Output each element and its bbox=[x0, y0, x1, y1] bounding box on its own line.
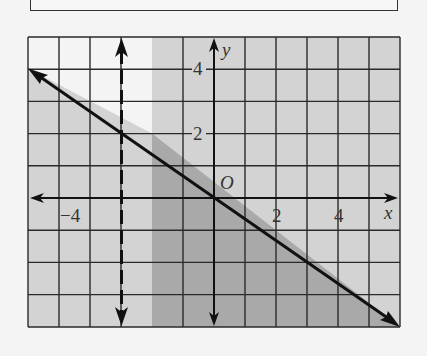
x-tick-neg4: −4 bbox=[60, 205, 81, 226]
y-tick-2: 2 bbox=[193, 123, 203, 144]
x-axis-label: x bbox=[383, 202, 393, 223]
origin-label: O bbox=[220, 172, 234, 193]
y-tick-4: 4 bbox=[193, 58, 203, 79]
x-tick-4: 4 bbox=[334, 205, 344, 226]
x-tick-2: 2 bbox=[272, 205, 282, 226]
coordinate-graph: 4 2 y O −4 2 4 x bbox=[0, 0, 427, 356]
y-axis-label: y bbox=[220, 39, 231, 60]
